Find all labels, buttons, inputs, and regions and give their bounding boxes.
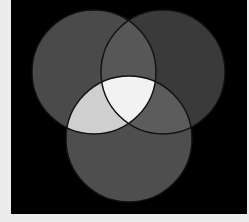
venn-diagram [0, 0, 249, 222]
